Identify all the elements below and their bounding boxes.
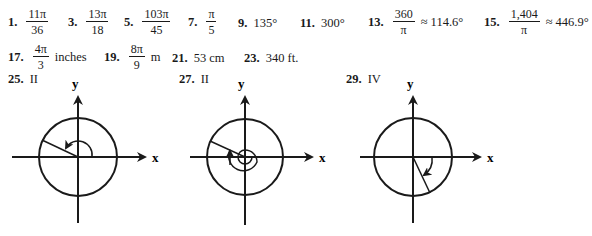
terminal-side (413, 157, 430, 193)
graph-27 (190, 97, 312, 225)
y-axis-label: y (238, 76, 245, 91)
x-axis-label: x (319, 150, 326, 165)
graph-29 (360, 97, 480, 223)
x-axis-label: x (152, 150, 159, 165)
angle-graphs: y x y x y x (0, 0, 592, 236)
rotation-arc (424, 157, 432, 175)
y-axis-label: y (72, 76, 79, 91)
y-axis-label: y (407, 76, 414, 91)
rotation-spiral (229, 150, 257, 171)
rotation-arc (66, 141, 92, 157)
x-axis-label: x (487, 150, 494, 165)
terminal-side (210, 141, 245, 157)
graph-25 (12, 97, 145, 223)
